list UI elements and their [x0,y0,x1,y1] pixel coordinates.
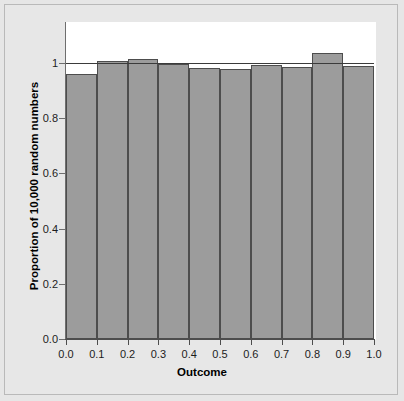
x-axis-tick-label: 0.8 [295,348,329,360]
x-axis-tick-label: 0.9 [326,348,360,360]
y-axis-tick [59,339,65,340]
x-axis-tick [97,339,98,345]
x-axis-tick [158,339,159,345]
x-axis-tick-label: 0.6 [234,348,268,360]
bar [189,68,220,339]
y-axis-tick [59,173,65,174]
x-axis-tick [189,339,190,345]
x-axis-tick-label: 0.5 [203,348,237,360]
x-axis-tick [66,339,67,345]
reference-line [66,63,374,64]
x-axis-tick-label: 0.7 [265,348,299,360]
bar [220,69,251,339]
x-axis-tick-label: 0.1 [80,348,114,360]
y-axis-tick [59,118,65,119]
x-axis-tick [220,339,221,345]
x-axis-tick-label: 0.0 [49,348,83,360]
bar [312,53,343,339]
y-axis-tick [59,284,65,285]
bar [251,65,282,339]
bar [343,66,374,339]
y-axis-tick [59,229,65,230]
x-axis-tick [312,339,313,345]
x-axis-tick-label: 0.4 [172,348,206,360]
x-axis-tick [374,339,375,345]
y-axis-title: Proportion of 10,000 random numbers [28,66,40,306]
x-axis-tick-label: 0.2 [111,348,145,360]
bar [128,59,159,339]
y-axis-line [65,22,66,340]
bar [66,74,97,340]
y-axis-tick [59,63,65,64]
bar [97,61,128,339]
bar [158,64,189,339]
x-axis-title: Outcome [0,366,404,378]
x-axis-tick-label: 1.0 [357,348,391,360]
figure-root: 0.00.20.40.60.81 0.00.10.20.30.40.50.60.… [0,0,404,401]
y-axis-tick-label: 0.0 [14,334,58,345]
x-axis-tick [282,339,283,345]
x-axis-tick-label: 0.3 [141,348,175,360]
x-axis-tick [343,339,344,345]
x-axis-tick [251,339,252,345]
bar [282,67,313,339]
plot-area [66,63,374,339]
x-axis-tick [128,339,129,345]
